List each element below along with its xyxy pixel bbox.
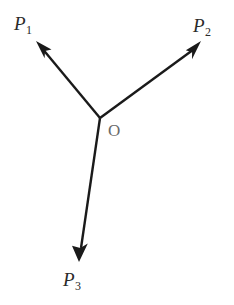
vector-label-p3-subscript: 3 [75, 279, 81, 293]
vector-diagram-figure: P1 P2 P3 O [0, 0, 234, 305]
vector-label-p2-subscript: 2 [205, 25, 211, 39]
vector-label-p1-subscript: 1 [26, 23, 32, 37]
vector-label-p2-base: P [193, 15, 205, 36]
vector-diagram-canvas [0, 0, 234, 305]
vector-label-p1-base: P [14, 13, 26, 34]
origin-label: O [108, 122, 120, 139]
vector-label-p2: P2 [193, 16, 211, 35]
figure-background [0, 0, 234, 305]
vector-label-p3: P3 [63, 270, 81, 289]
vector-label-p3-base: P [63, 269, 75, 290]
vector-label-p1: P1 [14, 14, 32, 33]
